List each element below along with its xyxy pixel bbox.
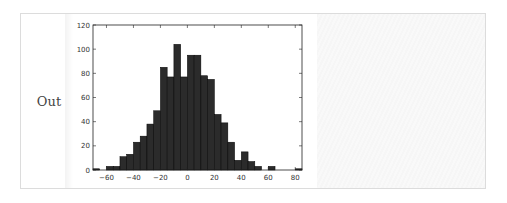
histogram-bar [208,79,215,170]
histogram-chart: −60−40−20020406080 020406080100120 [65,14,317,188]
histogram-bar [160,67,167,170]
histogram-bar [268,166,275,170]
y-tick-label: 60 [81,94,90,102]
histogram-bar [174,44,181,170]
y-tick-label: 120 [77,22,90,30]
y-tick-label: 80 [81,70,90,78]
histogram-bar [147,124,154,170]
histogram-bar [187,55,194,170]
y-tick-label: 40 [81,118,90,126]
histogram-bar [214,114,221,170]
histogram-bar [127,154,134,170]
x-tick-label: 60 [264,174,273,182]
histogram-bar [255,166,262,170]
x-tick-label: −40 [126,174,141,182]
x-tick-label: 0 [185,174,189,182]
histogram-bar [181,77,188,170]
output-area: −60−40−20020406080 020406080100120 [65,14,485,188]
histogram-bars [93,44,302,170]
y-tick-label: 0 [86,167,90,175]
x-tick-label: 80 [291,174,300,182]
x-tick-label: 20 [210,174,219,182]
x-tick-label: −60 [99,174,114,182]
histogram-bar [201,76,208,170]
histogram-bar [140,136,147,170]
histogram-bar [106,166,113,170]
histogram-figure: −60−40−20020406080 020406080100120 [65,14,317,188]
output-prompt: Out [21,14,65,188]
histogram-bar [194,55,201,170]
histogram-bar [235,160,242,170]
histogram-bar [248,162,255,170]
x-tick-label: −20 [153,174,168,182]
y-tick-label: 100 [77,46,90,54]
output-cell: Out −60−40−20020406080 020406080100120 [20,13,486,189]
histogram-bar [241,152,248,170]
prompt-label: Out [37,94,61,109]
histogram-bar [221,123,228,170]
x-tick-label: 40 [237,174,246,182]
y-tick-label: 20 [81,142,90,150]
histogram-bar [133,142,140,170]
histogram-bar [228,142,235,170]
histogram-bar [120,157,127,170]
histogram-bar [167,77,174,170]
histogram-bar [113,166,120,170]
histogram-bar [154,111,161,170]
